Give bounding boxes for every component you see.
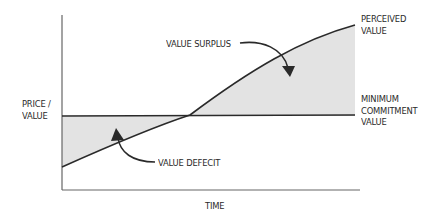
x-axis-label: TIME — [205, 200, 224, 212]
minimum-commitment-label-line3: VALUE — [361, 116, 418, 128]
minimum-commitment-label-line2: COMMITMENT — [361, 105, 418, 117]
minimum-commitment-line — [62, 115, 355, 116]
y-axis-label-line1: PRICE / — [22, 98, 51, 110]
deficit-arrow-icon — [118, 138, 155, 162]
perceived-value-label-line2: VALUE — [361, 25, 406, 37]
y-axis-label-line2: VALUE — [22, 110, 51, 122]
minimum-commitment-label: MINIMUM COMMITMENT VALUE — [361, 93, 418, 128]
perceived-value-label: PERCEIVED VALUE — [361, 13, 406, 36]
perceived-value-label-line1: PERCEIVED — [361, 13, 406, 25]
minimum-commitment-label-line1: MINIMUM — [361, 93, 418, 105]
y-axis-label: PRICE / VALUE — [22, 98, 51, 121]
value-deficit-label: VALUE DEFECIT — [158, 157, 220, 169]
value-surplus-label: VALUE SURPLUS — [166, 38, 231, 50]
